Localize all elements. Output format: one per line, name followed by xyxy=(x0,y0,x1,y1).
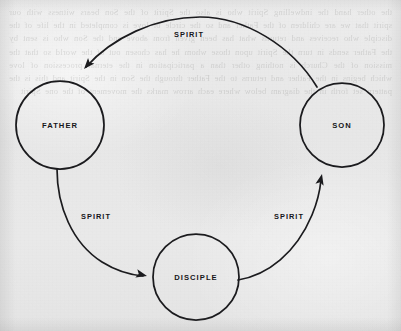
disciple-label: DISCIPLE xyxy=(174,273,217,282)
node-father[interactable]: FATHER xyxy=(16,81,104,169)
node-disciple[interactable]: DISCIPLE xyxy=(153,234,239,320)
son-label: SON xyxy=(332,121,352,130)
edge-son-to-father[interactable]: SPIRIT xyxy=(81,17,317,87)
father-to-disciple-label: SPIRIT xyxy=(81,212,111,221)
edge-father-to-disciple[interactable]: SPIRIT xyxy=(57,169,148,280)
trinity-cycle-diagram: FATHER SON DISCIPLE SPIRIT SPIRIT SPIRIT xyxy=(0,0,401,331)
disciple-to-son-curve[interactable] xyxy=(238,180,321,280)
node-son[interactable]: SON xyxy=(300,83,384,167)
edge-disciple-to-son[interactable]: SPIRIT xyxy=(238,173,326,280)
disciple-to-son-label: SPIRIT xyxy=(274,212,304,221)
father-label: FATHER xyxy=(42,121,78,130)
father-to-disciple-curve[interactable] xyxy=(57,169,143,276)
son-to-father-curve[interactable] xyxy=(86,17,317,87)
son-to-father-label: SPIRIT xyxy=(174,30,204,39)
scanned-page: the other hand the indwelling Spirit who… xyxy=(0,0,401,331)
